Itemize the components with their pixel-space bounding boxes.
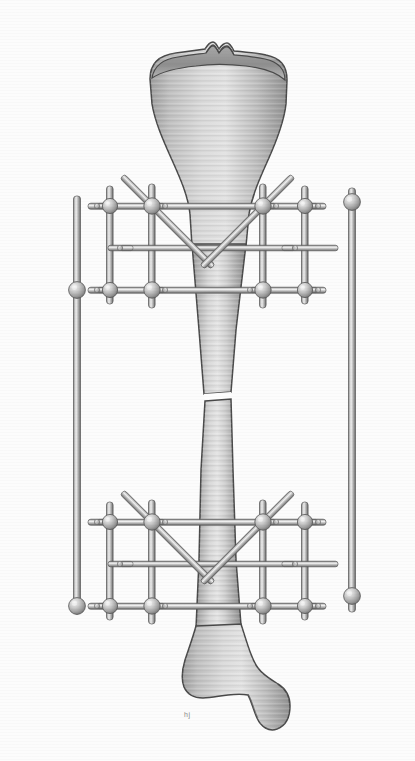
plate-mark: hj bbox=[184, 711, 190, 718]
bar-proximal-upper bbox=[88, 203, 326, 209]
stub-proximal-left-mid bbox=[117, 245, 133, 250]
clamp-distal-outer-left bbox=[69, 598, 86, 615]
tibia-external-fixator-illustration bbox=[0, 0, 415, 761]
stub-distal-left-mid bbox=[117, 561, 133, 566]
clamp-proximal-outer-right bbox=[344, 194, 361, 211]
bar-distal-upper bbox=[88, 519, 326, 525]
clamp-proximal-outer-left bbox=[69, 282, 86, 299]
bar-proximal-lower bbox=[88, 287, 326, 293]
stub-proximal-right-mid bbox=[282, 245, 298, 250]
figure-root: hj bbox=[0, 0, 415, 761]
stub-distal-right-mid bbox=[282, 561, 298, 566]
bar-distal-lower bbox=[88, 603, 326, 609]
rod-outer-right bbox=[349, 188, 356, 612]
clamp-distal-outer-right bbox=[344, 588, 361, 605]
rod-outer-left bbox=[74, 196, 81, 614]
